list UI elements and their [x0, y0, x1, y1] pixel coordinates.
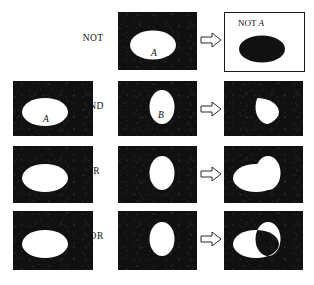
shape-ellipse-a-not — [118, 12, 197, 70]
shape-ellipse-not-a — [225, 13, 304, 71]
panel-xor-operand-a — [13, 211, 93, 270]
shape-ellipse-b-or — [118, 146, 197, 203]
panel-result-xor — [224, 211, 303, 270]
caption-not-a: NOT A — [238, 18, 264, 28]
right-arrow-icon-and — [200, 101, 222, 117]
caption-not-prefix: NOT — [238, 18, 256, 28]
shape-ellipse-b-and — [118, 81, 197, 136]
panel-result-or — [224, 146, 303, 203]
panel-xor-operand-b — [118, 211, 197, 270]
panel-result-not-a: NOT A — [224, 12, 305, 72]
operation-label-not: NOT — [73, 33, 113, 43]
shape-union — [224, 146, 303, 203]
shape-ellipse-a-xor — [13, 211, 93, 270]
right-arrow-icon-or — [200, 166, 222, 182]
shape-ellipse-a-and — [13, 81, 93, 136]
panel-or-operand-b — [118, 146, 197, 203]
figure-canvas: NOT A NOT A AND A B — [0, 0, 314, 285]
caption-not-set: A — [259, 18, 265, 28]
right-arrow-icon-not — [200, 32, 222, 48]
set-label-b-and: B — [158, 110, 164, 120]
panel-and-operand-a: A — [13, 81, 93, 136]
shape-symmetric-difference — [224, 211, 303, 270]
shape-ellipse-a-or — [13, 146, 93, 203]
panel-and-operand-b: B — [118, 81, 197, 136]
panel-result-and — [224, 81, 303, 136]
panel-or-operand-a — [13, 146, 93, 203]
shape-intersection-lens — [224, 81, 303, 136]
set-label-a-and: A — [43, 114, 49, 124]
panel-not-operand-a: A — [118, 12, 197, 70]
right-arrow-icon-xor — [200, 231, 222, 247]
shape-ellipse-b-xor — [118, 211, 197, 270]
set-label-a-not: A — [151, 48, 157, 58]
